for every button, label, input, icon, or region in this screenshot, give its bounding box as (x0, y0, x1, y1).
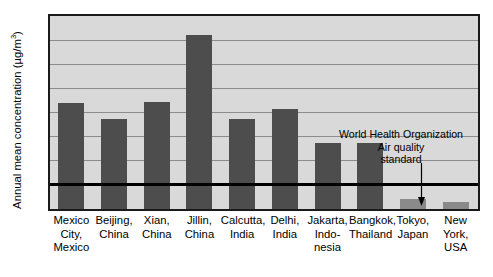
who-annotation-line-1: World Health Organization (312, 128, 490, 141)
x-axis-label-line-2: China (93, 228, 136, 242)
x-axis-label-line-1: Tokyo, (392, 214, 435, 228)
x-axis-label-line-1: Beijing, (93, 214, 136, 228)
x-axis-label-line-2: India (221, 228, 264, 242)
x-axis-label-line-1: Jakarta, (306, 214, 349, 228)
bars-layer (50, 16, 478, 209)
x-axis-label-line-2: York, (434, 228, 477, 242)
x-axis-label-tokyo-japan: Tokyo,Japan (392, 214, 435, 241)
x-axis-label-line-1: Calcutta, (221, 214, 264, 228)
bar-calcutta-india (229, 119, 255, 209)
x-axis-label-xian-china: Xian,China (135, 214, 178, 241)
who-annotation-line-3: standard (312, 153, 490, 166)
x-axis-label-line-2: India (264, 228, 307, 242)
x-axis-label-calcutta-india: Calcutta,India (221, 214, 264, 241)
x-axis-label-beijing-china: Beijing,China (93, 214, 136, 241)
air-quality-bar-chart: Annual mean concentration (µg/m3) 010020… (0, 0, 493, 277)
bar-xian-china (144, 102, 170, 209)
who-annotation-line-2: Air quality (312, 141, 490, 154)
bar-delhi-india (272, 109, 298, 209)
x-axis-label-jillin-china: Jillin,China (178, 214, 221, 241)
x-axis-label-bangkok-thailand: Bangkok,Thailand (349, 214, 392, 241)
x-axis-label-jakarta-indonesia: Jakarta,Indo-nesia (306, 214, 349, 255)
x-axis-label-line-2: Japan (392, 228, 435, 242)
who-standard-annotation: World Health OrganizationAir qualitystan… (312, 128, 490, 166)
x-axis-label-line-2: City, (50, 228, 93, 242)
x-axis-label-mexico-city-mexico: MexicoCity,Mexico (50, 214, 93, 255)
x-axis-label-line-3: Mexico (50, 241, 93, 255)
x-axis-label-line-2: China (135, 228, 178, 242)
x-axis-label-line-1: Delhi, (264, 214, 307, 228)
x-axis-label-line-1: Mexico (50, 214, 93, 228)
bar-new-york-usa (443, 202, 469, 209)
x-axis-label-line-3: USA (434, 241, 477, 255)
plot-area (48, 14, 480, 211)
x-axis-label-new-york-usa: NewYork,USA (434, 214, 477, 255)
x-axis-label-line-3: nesia (306, 241, 349, 255)
x-axis-label-line-1: Xian, (135, 214, 178, 228)
x-axis-label-line-2: China (178, 228, 221, 242)
x-axis-label-line-1: Jillin, (178, 214, 221, 228)
who-annotation-arrow-icon (417, 163, 426, 207)
who-standard-reference-line (50, 183, 478, 186)
bar-beijing-china (101, 119, 127, 209)
x-axis-label-line-1: Bangkok, (349, 214, 392, 228)
x-axis-label-line-2: Indo- (306, 228, 349, 242)
x-axis-label-line-2: Thailand (349, 228, 392, 242)
x-axis-label-line-1: New (434, 214, 477, 228)
bar-mexico-city-mexico (58, 103, 84, 209)
x-axis-label-delhi-india: Delhi,India (264, 214, 307, 241)
x-axis-category-labels: MexicoCity,MexicoBeijing,ChinaXian,China… (50, 214, 478, 276)
